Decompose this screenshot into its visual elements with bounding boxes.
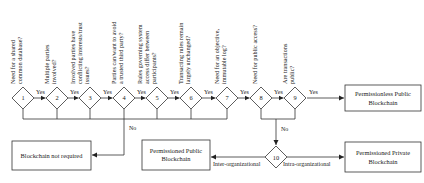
yes-label: Yes (274, 89, 283, 95)
no-label-10: No (281, 126, 288, 132)
yes-label: Yes (103, 89, 112, 95)
question-text-line: Need for a shared (9, 39, 16, 84)
outcome-line-1: Permissioned Private (356, 149, 410, 156)
decision-number: 5 (155, 94, 158, 101)
question-text-line: Involved parties have (69, 30, 76, 84)
decision-9: 9Are transactionspublic? (281, 43, 306, 109)
question-text-line: immutable log? (220, 45, 227, 84)
question-text-line: Need for an objective, (213, 29, 220, 84)
intra-organizational-label: Intra-organizational (283, 161, 331, 167)
yes-label: Yes (70, 89, 79, 95)
yes-label: Yes (137, 89, 146, 95)
inter-organizational-label: Inter-organizational (213, 161, 261, 167)
decision-number: 1 (21, 94, 24, 101)
no-label-4: No (129, 125, 136, 131)
outcome-permissioned-public: Permissioned Public Blockchain (142, 140, 210, 170)
outcome-line-2: Blockchain (161, 155, 191, 162)
question-text-line: participants? (150, 52, 157, 84)
question-text-line: issues? (83, 66, 90, 84)
yes-label: Yes (170, 89, 179, 95)
decision-number: 8 (259, 94, 262, 101)
decision-number: 6 (189, 94, 192, 101)
question-text-line: Transacting rules remain (177, 23, 184, 84)
question-text-line: Are transactions (281, 43, 288, 84)
decision-3: 3Involved parties haveconflicting intere… (69, 22, 101, 109)
outcome-line-1: Permissionless Public (355, 90, 411, 97)
yes-label-9: Yes (309, 89, 318, 95)
decision-4: 4Parties can/want to avoida trusted thir… (110, 21, 135, 109)
question-text-line: common database? (16, 37, 23, 84)
decision-number: 2 (55, 94, 58, 101)
question-text-line: public? (288, 66, 295, 84)
question-text-line: Multiple parties (43, 44, 50, 84)
decision-5: 5Rules governing systemaccess differ bet… (136, 24, 168, 109)
outcome-line-1: Permissioned Public (150, 147, 203, 154)
decision-1: 1Need for a sharedcommon database? (9, 37, 34, 109)
question-text-line: Parties can/want to avoid (110, 21, 117, 84)
decision-8: 8Need for public access? (250, 25, 272, 109)
question-text-line: largely unchanged? (184, 36, 191, 84)
outcome-blockchain-not-required: Blockchain not required (12, 141, 91, 170)
decision-number: 9 (293, 94, 296, 101)
outcome-permissioned-private: Permissioned Private Blockchain (345, 142, 421, 172)
question-text-line: access differ between (143, 31, 150, 84)
outcome-line-1: Blockchain not required (21, 152, 84, 159)
outcome-permissionless-public: Permissionless Public Blockchain (345, 85, 421, 111)
decision-2: 2Multiple partiesinvolved? (43, 44, 68, 109)
question-text-line: involved? (50, 59, 57, 84)
question-text-line: Rules governing system (136, 24, 143, 84)
question-text-line: Need for public access? (251, 25, 258, 84)
outcome-line-2: Blockchain (368, 99, 398, 106)
decision-number: 3 (88, 94, 91, 101)
decision-6: 6Transacting rules remainlargely unchang… (177, 23, 202, 109)
decision-7: 7Need for an objective,immutable log? (213, 29, 238, 109)
yes-label: Yes (240, 89, 249, 95)
blockchain-decision-flowchart: 1Need for a sharedcommon database?2Multi… (0, 0, 424, 183)
yes-label: Yes (36, 89, 45, 95)
decision-number: 10 (273, 154, 279, 161)
outcome-line-2: Blockchain (368, 158, 398, 165)
question-text-line: a trusted third party? (117, 32, 124, 84)
question-text-line: conflicting interests/trust (76, 22, 83, 84)
yes-label: Yes (204, 89, 213, 95)
